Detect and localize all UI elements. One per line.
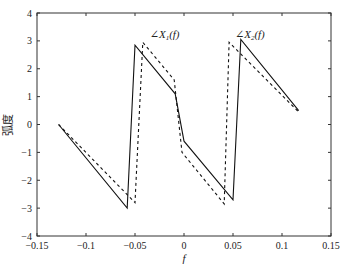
x-tick-label: −0.05 (123, 240, 146, 251)
x-tick-label: −0.1 (77, 240, 95, 251)
y-tick-label: −4 (21, 231, 32, 242)
y-tick-label: 3 (27, 35, 32, 46)
x-tick-label: 0.15 (322, 240, 340, 251)
y-axis-label: 弧度 (1, 114, 15, 136)
y-tick-label: 0 (27, 119, 32, 130)
data-series (59, 40, 299, 209)
y-tick-label: 1 (27, 91, 32, 102)
x-tick-label: −0.15 (25, 240, 48, 251)
y-tick-label: 4 (27, 8, 32, 19)
x-tick-label: 0 (182, 240, 187, 251)
x-axis-label: f (182, 252, 187, 264)
annotations: ∠X1(f)∠X2(f) (150, 28, 265, 42)
series-label-2: ∠X2(f) (235, 28, 265, 42)
y-tick-label: 2 (27, 63, 32, 74)
x-tick-label: 0.1 (276, 240, 289, 251)
x-tick-label: 0.05 (224, 240, 242, 251)
series-label-1: ∠X1(f) (150, 28, 180, 42)
plot-frame (37, 13, 331, 236)
y-tick-label: −2 (21, 175, 32, 186)
phase-chart: −0.15−0.1−0.0500.050.10.15 43210−1−2−3−4… (0, 0, 346, 270)
y-tick-label: −1 (21, 147, 32, 158)
y-axis-ticks: 43210−1−2−3−4 (21, 8, 331, 242)
y-tick-label: −3 (21, 203, 32, 214)
